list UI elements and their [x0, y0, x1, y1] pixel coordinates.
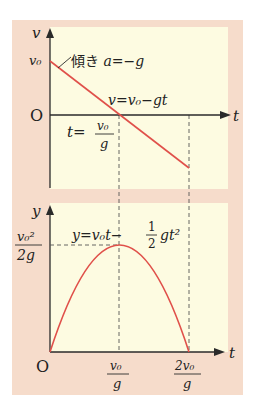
t-axis-top-label: t	[233, 107, 240, 125]
curve-equation-suffix: gt²	[160, 227, 181, 243]
peak-height-numerator: v₀²	[17, 229, 35, 244]
curve-equation-frac-num: 1	[148, 220, 156, 234]
v0-tick-label: v₀	[29, 53, 42, 68]
slope-label: 傾き a=−g	[71, 53, 144, 69]
tick-landing-time-denominator: g	[183, 376, 191, 391]
zero-crossing-denominator: g	[100, 136, 108, 151]
tick-landing-time-numerator: 2v₀	[174, 359, 194, 373]
v-axis-label: v	[32, 24, 41, 42]
graphs-svg: v t O v₀ 傾き a=−g v=v₀−gt t= v₀ g	[0, 0, 255, 411]
zero-crossing-prefix: t=	[67, 123, 86, 141]
y-axis-label: y	[31, 202, 41, 220]
tick-peak-time-numerator: v₀	[110, 359, 122, 373]
curve-equation-prefix: y=v₀t−	[71, 227, 123, 243]
peak-height-denominator: 2g	[16, 247, 35, 263]
tick-peak-time-denominator: g	[113, 376, 121, 391]
bottom-plot-area	[50, 203, 228, 352]
t-axis-bottom-label: t	[229, 344, 236, 362]
top-plot-area	[50, 27, 228, 189]
velocity-equation: v=v₀−gt	[108, 92, 168, 108]
zero-crossing-numerator: v₀	[97, 119, 109, 133]
origin-label-top: O	[30, 106, 43, 125]
origin-label-bottom: O	[36, 357, 49, 376]
motion-graphs-figure: v t O v₀ 傾き a=−g v=v₀−gt t= v₀ g	[0, 0, 255, 411]
curve-equation-frac-den: 2	[148, 237, 156, 251]
